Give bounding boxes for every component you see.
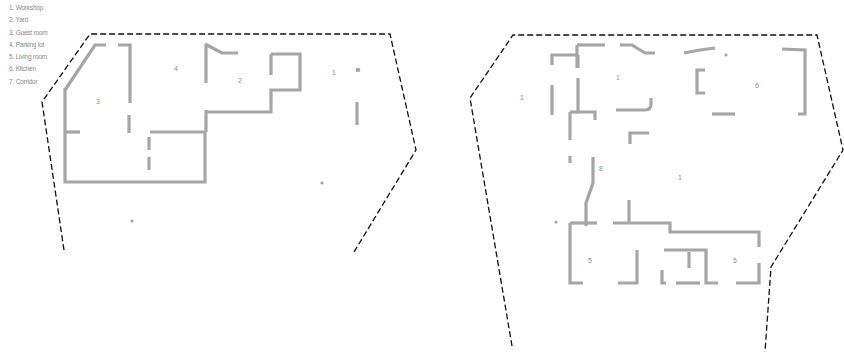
left-site-boundary bbox=[42, 34, 416, 252]
right-point-marker bbox=[554, 220, 557, 223]
right-label-workshop-center: 1 bbox=[678, 174, 682, 181]
right-label-corridor: 8 bbox=[599, 165, 603, 172]
right-walls bbox=[552, 45, 805, 283]
right-label-kitchen: 6 bbox=[755, 82, 759, 89]
left-point-marker-2 bbox=[130, 219, 133, 222]
right-floor-plan: 1 1 6 8 1 5 5 bbox=[470, 35, 843, 352]
left-floor-plan: 3 4 2 1 bbox=[42, 34, 416, 252]
right-label-living-room-east: 5 bbox=[733, 257, 737, 264]
right-site-boundary bbox=[470, 35, 843, 352]
floor-plans: 3 4 2 1 bbox=[0, 0, 844, 355]
left-label-parking-lot: 4 bbox=[174, 65, 178, 72]
right-label-living-room-west: 5 bbox=[588, 257, 592, 264]
left-column-marker bbox=[356, 68, 361, 73]
right-label-workshop-west: 1 bbox=[520, 94, 524, 101]
right-column-marker bbox=[724, 53, 727, 56]
left-label-yard: 2 bbox=[238, 77, 242, 84]
left-walls bbox=[65, 44, 357, 182]
right-label-workshop-north: 1 bbox=[616, 74, 620, 81]
left-label-workshop: 1 bbox=[332, 69, 336, 76]
left-point-marker-1 bbox=[320, 181, 323, 184]
left-label-guest-room: 3 bbox=[96, 98, 100, 105]
